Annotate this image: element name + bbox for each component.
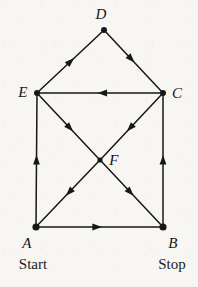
- vertex-label-b: B: [168, 236, 177, 251]
- vertex-label-f: F: [109, 153, 118, 168]
- vertex-d: [101, 27, 107, 33]
- arrowhead-a-b: [92, 224, 102, 231]
- vertex-b: [159, 223, 166, 230]
- stop-label: Stop: [158, 257, 186, 272]
- vertex-a: [32, 223, 39, 230]
- node-layer: [32, 27, 166, 231]
- vertex-label-c: C: [172, 86, 182, 101]
- vertex-label-a: A: [22, 236, 31, 251]
- arrowhead-a-e: [33, 155, 40, 165]
- vertex-f: [97, 157, 102, 162]
- arrowhead-c-e: [98, 90, 108, 97]
- vertex-label-e: E: [18, 85, 27, 100]
- vertex-label-d: D: [95, 7, 106, 22]
- arrowhead-layer: [33, 53, 166, 230]
- vertex-c: [160, 90, 166, 96]
- edge-layer: [36, 31, 163, 227]
- arrowhead-b-c: [160, 155, 167, 165]
- directed-graph-figure: ABCDEF Start Stop: [0, 0, 198, 287]
- vertex-e: [34, 90, 40, 96]
- start-label: Start: [19, 257, 47, 272]
